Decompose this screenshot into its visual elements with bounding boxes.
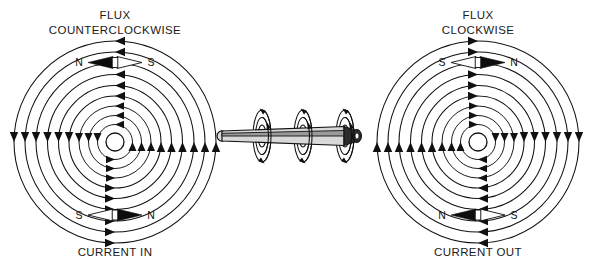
- right-conductor-cross-section: [469, 133, 487, 151]
- left-top-compass-south-label: S: [147, 56, 154, 68]
- right-bottom-needle-pivot: [475, 210, 481, 220]
- left-title-line1: FLUX: [100, 9, 131, 21]
- right-bottom-label: CURRENT OUT: [434, 246, 522, 258]
- right-top-compass-south-label: S: [438, 56, 445, 68]
- left-top-arrowheads: [115, 37, 125, 129]
- left-bottom-needle-pivot: [112, 210, 118, 220]
- left-top-compass: N S: [75, 56, 154, 69]
- right-top-needle-pivot: [475, 58, 481, 68]
- right-panel: FLUX CLOCKWISE: [373, 9, 583, 258]
- flux-diagram-svg: FLUX COUNTERCLOCKWISE: [0, 0, 592, 268]
- left-west-arrowheads: [10, 132, 102, 142]
- left-title-line2: COUNTERCLOCKWISE: [49, 24, 181, 36]
- right-title-line1: FLUX: [463, 9, 494, 21]
- left-top-compass-north-label: N: [75, 56, 83, 68]
- right-bottom-compass: N S: [438, 209, 517, 222]
- left-panel: FLUX COUNTERCLOCKWISE: [10, 9, 220, 258]
- right-bottom-compass-south-label: S: [510, 209, 517, 221]
- right-title-line2: CLOCKWISE: [442, 24, 515, 36]
- center-conductor-illustration: [217, 109, 362, 164]
- right-top-arrowheads: [468, 37, 478, 129]
- left-bottom-compass-south-label: S: [75, 209, 82, 221]
- left-bottom-arrowheads: [105, 156, 115, 248]
- right-top-compass-north-label: N: [510, 56, 518, 68]
- flux-diagram-figure: FLUX COUNTERCLOCKWISE: [0, 0, 592, 268]
- right-west-arrowheads: [373, 142, 465, 152]
- left-conductor-cross-section: [106, 133, 124, 151]
- right-east-arrowheads: [492, 132, 584, 142]
- right-bottom-arrowheads: [478, 156, 488, 248]
- center-conductor-wire: [217, 127, 362, 146]
- left-top-needle-pivot: [112, 58, 118, 68]
- conductor-tip-center: [355, 133, 359, 139]
- right-bottom-compass-north-label: N: [438, 209, 446, 221]
- left-east-arrowheads: [129, 142, 221, 152]
- right-top-compass: S N: [438, 56, 517, 69]
- left-bottom-compass: S N: [75, 209, 154, 222]
- left-bottom-compass-north-label: N: [147, 209, 155, 221]
- left-bottom-label: CURRENT IN: [78, 246, 153, 258]
